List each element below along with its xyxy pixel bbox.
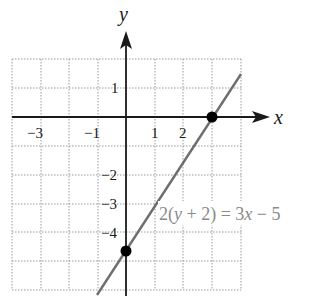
y-tick-label: 1 — [111, 80, 119, 96]
y-tick-label: −4 — [101, 225, 117, 241]
x-intercept-point — [207, 112, 218, 123]
x-axis — [12, 111, 270, 123]
x-axis-label: x — [273, 106, 283, 128]
y-tick-label: −3 — [101, 196, 117, 212]
coordinate-plane: x y −3 −1 1 2 1 −2 −3 −4 2(y + 2) = 3x −… — [0, 0, 310, 306]
y-axis-label: y — [117, 3, 128, 26]
x-tick-label: −1 — [84, 125, 100, 141]
x-tick-label: 2 — [179, 125, 187, 141]
y-intercept-point — [121, 246, 132, 257]
x-tick-label: 1 — [151, 125, 159, 141]
x-tick-label: −3 — [27, 125, 43, 141]
graph-line — [97, 74, 241, 295]
equation-label: 2(y + 2) = 3x − 5 — [159, 204, 280, 225]
y-tick-label: −2 — [101, 167, 117, 183]
